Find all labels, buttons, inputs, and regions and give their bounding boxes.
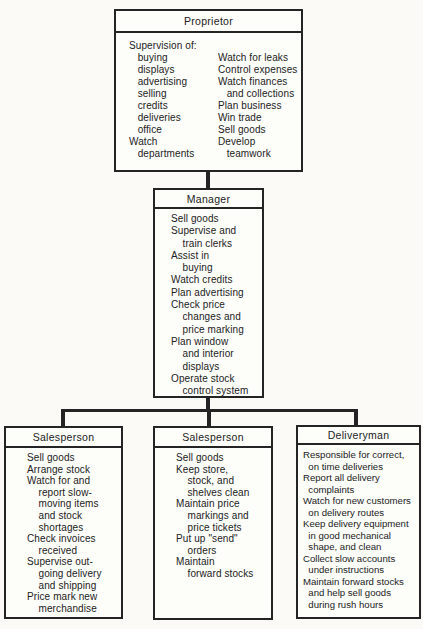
duty-line: received: [27, 545, 121, 557]
proprietor-duties-left: buying displays advertising selling cred…: [129, 52, 218, 160]
duty-line: Watch: [129, 136, 218, 148]
duty-line: forward stocks: [176, 568, 271, 580]
duty-line: Price mark new: [27, 591, 121, 603]
duty-line: shortages: [27, 522, 121, 534]
node-manager: Manager Sell goodsSupervise and train cl…: [153, 188, 264, 398]
duty-line: report slow-: [27, 487, 121, 499]
node-salesperson-left-title: Salesperson: [6, 428, 121, 448]
duty-line: Watch for leaks: [218, 52, 301, 64]
node-manager-duties: Sell goodsSupervise and train clerksAssi…: [155, 209, 262, 397]
duty-line: displays: [171, 361, 262, 373]
node-salesperson-middle-title: Salesperson: [155, 428, 271, 448]
node-deliveryman: Deliveryman Responsible for correct, on …: [296, 425, 421, 619]
node-proprietor-title: Proprietor: [116, 11, 301, 33]
duty-line: Maintain price: [176, 498, 271, 510]
duty-line: stock, and: [176, 475, 271, 487]
duty-line: moving items: [27, 498, 121, 510]
duty-line: Collect slow accounts: [303, 553, 419, 565]
duty-line: Assist in: [171, 250, 262, 262]
connector-drop-deliveryman: [354, 409, 358, 426]
duty-line: Plan advertising: [171, 287, 262, 299]
duty-line: Control expenses: [218, 64, 301, 76]
duty-line: on delivery routes: [303, 507, 419, 519]
duty-line: merchandise: [27, 603, 121, 615]
duty-line: shelves clean: [176, 487, 271, 499]
supervision-intro: Supervision of:: [129, 40, 301, 52]
node-salesperson-middle-duties: Sell goodsKeep store, stock, and shelves…: [155, 448, 271, 580]
duty-line: deliveries: [129, 112, 218, 124]
duty-line: price marking: [171, 324, 262, 336]
duty-line: under instructions: [303, 564, 419, 576]
duty-line: Watch credits: [171, 274, 262, 286]
duty-line: credits: [129, 100, 218, 112]
duty-line: and collections: [218, 88, 301, 100]
duty-line: shape, and clean: [303, 541, 419, 553]
duty-line: Maintain: [176, 556, 271, 568]
node-proprietor-body: Supervision of: buying displays advertis…: [116, 33, 301, 160]
proprietor-duty-columns: buying displays advertising selling cred…: [129, 52, 301, 160]
duty-line: Sell goods: [27, 452, 121, 464]
duty-line: orders: [176, 545, 271, 557]
node-deliveryman-duties: Responsible for correct, on time deliver…: [298, 445, 419, 610]
duty-line: departments: [129, 148, 218, 160]
duty-line: Keep store,: [176, 464, 271, 476]
duty-line: Keep delivery equipment: [303, 518, 419, 530]
duty-line: Arrange stock: [27, 464, 121, 476]
duty-line: Responsible for correct,: [303, 449, 419, 461]
node-proprietor: Proprietor Supervision of: buying displa…: [114, 9, 303, 172]
duty-line: Report all delivery: [303, 472, 419, 484]
duty-line: Supervise out-: [27, 556, 121, 568]
proprietor-duties-right: Watch for leaksControl expensesWatch fin…: [218, 52, 301, 160]
duty-line: complaints: [303, 484, 419, 496]
duty-line: selling: [129, 88, 218, 100]
duty-line: office: [129, 124, 218, 136]
duty-line: and stock: [27, 510, 121, 522]
node-manager-title: Manager: [155, 190, 262, 209]
duty-line: buying: [129, 52, 218, 64]
duty-line: displays: [129, 64, 218, 76]
node-salesperson-middle: Salesperson Sell goodsKeep store, stock,…: [153, 426, 273, 620]
duty-line: and shipping: [27, 580, 121, 592]
duty-line: price tickets: [176, 522, 271, 534]
duty-line: Check price: [171, 299, 262, 311]
connector-proprietor-manager: [206, 171, 210, 189]
duty-line: Plan window: [171, 336, 262, 348]
duty-line: and interior: [171, 348, 262, 360]
duty-line: Plan business: [218, 100, 301, 112]
duty-line: on time deliveries: [303, 461, 419, 473]
duty-line: changes and: [171, 311, 262, 323]
duty-line: Win trade: [218, 112, 301, 124]
duty-line: advertising: [129, 76, 218, 88]
duty-line: Sell goods: [171, 213, 262, 225]
duty-line: during rush hours: [303, 599, 419, 611]
duty-line: going delivery: [27, 568, 121, 580]
node-salesperson-left-duties: Sell goodsArrange stockWatch for and rep…: [6, 448, 121, 614]
duty-line: teamwork: [218, 148, 301, 160]
duty-line: Watch finances: [218, 76, 301, 88]
connector-drop-salesperson-middle: [207, 409, 211, 427]
duty-line: Put up "send": [176, 533, 271, 545]
duty-line: train clerks: [171, 238, 262, 250]
duty-line: Watch for new customers: [303, 495, 419, 507]
duty-line: Maintain forward stocks: [303, 576, 419, 588]
duty-line: Watch for and: [27, 475, 121, 487]
duty-line: Sell goods: [218, 124, 301, 136]
duty-line: Check invoices: [27, 533, 121, 545]
duty-line: Sell goods: [176, 452, 271, 464]
duty-line: in good mechanical: [303, 530, 419, 542]
duty-line: and help sell goods: [303, 587, 419, 599]
node-deliveryman-title: Deliveryman: [298, 427, 419, 445]
duty-line: buying: [171, 262, 262, 274]
org-chart-page: Proprietor Supervision of: buying displa…: [0, 0, 423, 629]
duty-line: markings and: [176, 510, 271, 522]
duty-line: control system: [171, 385, 262, 397]
node-salesperson-left: Salesperson Sell goodsArrange stockWatch…: [4, 426, 123, 619]
duty-line: Develop: [218, 136, 301, 148]
connector-drop-salesperson-left: [61, 409, 65, 427]
duty-line: Supervise and: [171, 225, 262, 237]
duty-line: Operate stock: [171, 373, 262, 385]
